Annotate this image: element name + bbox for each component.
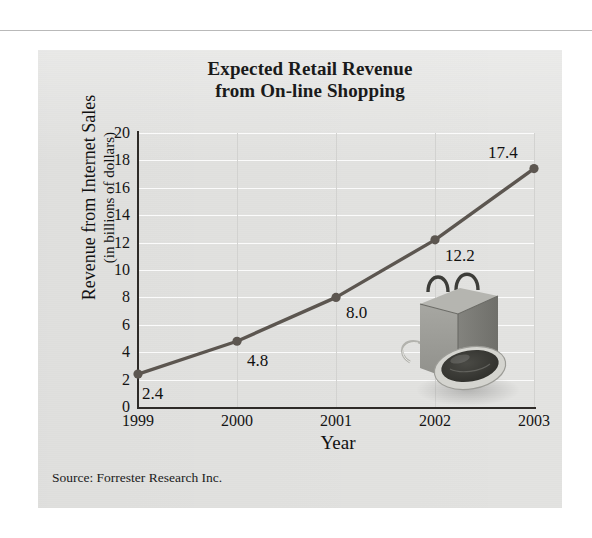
revenue-line (138, 169, 534, 375)
data-point-label: 8.0 (346, 303, 367, 323)
revenue-marker (232, 337, 241, 346)
revenue-marker (331, 293, 340, 302)
source-note: Source: Forrester Research Inc. (52, 470, 222, 486)
data-point-label: 4.8 (247, 351, 268, 371)
data-point-label: 17.4 (488, 143, 518, 163)
revenue-marker (133, 370, 142, 379)
revenue-markers (133, 164, 538, 379)
data-series-layer (0, 0, 592, 538)
revenue-marker (529, 164, 538, 173)
revenue-marker (430, 235, 439, 244)
data-point-label: 12.2 (445, 246, 475, 266)
figure-canvas: Expected Retail Revenue from On-line Sho… (0, 0, 592, 538)
data-point-label: 2.4 (142, 384, 163, 404)
